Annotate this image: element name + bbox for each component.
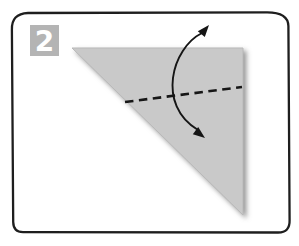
step-number: 2 — [35, 25, 54, 58]
step-diagram: 2 — [0, 0, 299, 246]
origami-step-panel: 2 — [0, 0, 299, 246]
